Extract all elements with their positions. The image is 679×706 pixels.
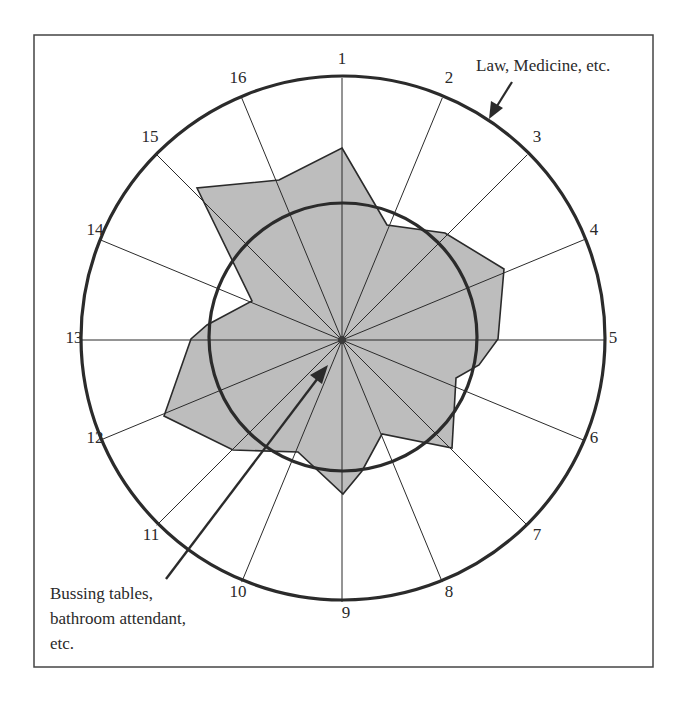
- axis-label-9: 9: [342, 603, 351, 622]
- axis-label-13: 13: [66, 328, 83, 347]
- axis-label-6: 6: [590, 428, 599, 447]
- axis-label-4: 4: [590, 220, 599, 239]
- annotation-law-medicine: Law, Medicine, etc.: [476, 56, 610, 75]
- axis-label-15: 15: [142, 127, 159, 146]
- axis-label-1: 1: [338, 49, 347, 68]
- axis-label-3: 3: [533, 127, 542, 146]
- axis-label-14: 14: [87, 220, 105, 239]
- axis-label-12: 12: [87, 428, 104, 447]
- axis-label-7: 7: [533, 525, 542, 544]
- annotation-line-1: Bussing tables,: [50, 584, 153, 603]
- center-hub: [338, 336, 346, 344]
- annotation-line-2: bathroom attendant,: [50, 609, 186, 628]
- axis-label-5: 5: [609, 328, 618, 347]
- axis-label-10: 10: [230, 582, 247, 601]
- axis-label-11: 11: [143, 525, 159, 544]
- annotation-line-3: etc.: [50, 634, 74, 653]
- radar-diagram: 1 2 3 4 5 6 7 8 9 10 11 12 13 14 15 16 L…: [0, 0, 679, 706]
- axis-label-8: 8: [445, 582, 454, 601]
- axis-label-2: 2: [445, 68, 454, 87]
- axis-label-16: 16: [230, 68, 247, 87]
